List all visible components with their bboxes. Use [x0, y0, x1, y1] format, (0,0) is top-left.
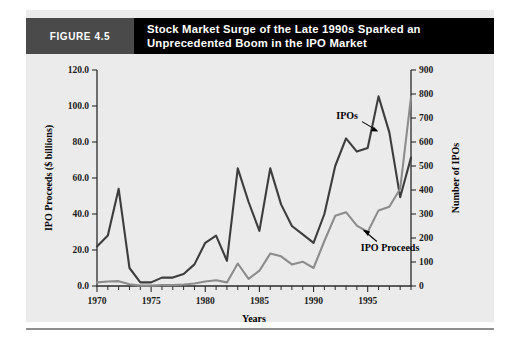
- y2-tick-label: 0: [419, 281, 424, 291]
- annotation-ipo-proceeds: IPO Proceeds: [361, 242, 420, 253]
- x-tick-label: 1985: [250, 296, 269, 306]
- chart-axes: 0.020.040.060.080.0100.0120.001002003004…: [68, 65, 434, 306]
- chart-axis-titles: IPO Proceeds ($ billions)Number of IPOsY…: [43, 125, 461, 322]
- chart-canvas: 0.020.040.060.080.0100.0120.001002003004…: [26, 54, 494, 322]
- y2-tick-label: 700: [419, 113, 434, 123]
- axis-frame: [97, 70, 411, 286]
- y-axis-title: IPO Proceeds ($ billions): [43, 125, 55, 231]
- y-tick-label: 80.0: [72, 137, 89, 147]
- figure-number-badge: FIGURE 4.5: [26, 18, 134, 54]
- x-tick-label: 1980: [196, 296, 215, 306]
- y2-tick-label: 200: [419, 233, 434, 243]
- y-tick-label: 0.0: [77, 281, 89, 291]
- figure-panel: FIGURE 4.5 Stock Market Surge of the Lat…: [26, 10, 494, 322]
- x-tick-label: 1995: [358, 296, 377, 306]
- y2-tick-label: 800: [419, 89, 434, 99]
- y2-tick-label: 900: [419, 65, 434, 75]
- x-axis-title: Years: [242, 313, 266, 322]
- y2-tick-label: 300: [419, 209, 434, 219]
- y2-axis-title: Number of IPOs: [450, 143, 461, 213]
- y2-tick-label: 600: [419, 137, 434, 147]
- series-ipo-proceeds: [97, 97, 411, 286]
- series-ipos: [97, 96, 411, 282]
- annotation-ipos: IPOs: [336, 110, 358, 121]
- y-tick-label: 40.0: [72, 209, 89, 219]
- chart-series: [97, 96, 411, 285]
- y2-tick-label: 100: [419, 257, 434, 267]
- y2-tick-label: 400: [419, 185, 434, 195]
- figure-bottom-rule: [26, 328, 494, 330]
- y-tick-label: 100.0: [68, 101, 90, 111]
- y-tick-label: 120.0: [68, 65, 90, 75]
- x-tick-label: 1975: [142, 296, 161, 306]
- figure-title: Stock Market Surge of the Late 1990s Spa…: [134, 18, 494, 54]
- y-tick-label: 60.0: [72, 173, 89, 183]
- y-tick-label: 20.0: [72, 245, 89, 255]
- x-tick-label: 1990: [304, 296, 323, 306]
- x-tick-label: 1970: [88, 296, 107, 306]
- ipo-line-chart: 0.020.040.060.080.0100.0120.001002003004…: [26, 54, 494, 322]
- figure-header: FIGURE 4.5 Stock Market Surge of the Lat…: [26, 18, 494, 54]
- y2-tick-label: 500: [419, 161, 434, 171]
